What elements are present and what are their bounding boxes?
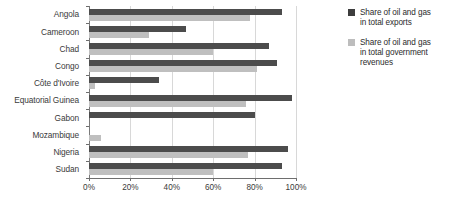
- bar-revenues: [89, 101, 246, 107]
- bar-group: [89, 144, 296, 161]
- category-label: Equatorial Guinea: [0, 92, 84, 109]
- bar-group: [89, 92, 296, 109]
- bar-revenues: [89, 15, 250, 21]
- bar-group: [89, 23, 296, 40]
- category-label: Gabon: [0, 109, 84, 126]
- bar-group: [89, 126, 296, 143]
- category-label: Congo: [0, 58, 84, 75]
- bar-group: [89, 109, 296, 126]
- bar-exports: [89, 77, 159, 83]
- legend-item[interactable]: Share of oil and gasin total exports: [348, 8, 452, 29]
- bar-group: [89, 75, 296, 92]
- bar-exports: [89, 112, 255, 118]
- x-axis-tick-label: 80%: [246, 184, 262, 192]
- legend-label-line: in total government: [360, 48, 431, 58]
- x-axis-tick-label: 100%: [286, 184, 307, 192]
- legend-swatch-revenues-icon: [348, 39, 355, 46]
- legend-label: Share of oil and gasin total governmentr…: [360, 38, 431, 69]
- category-label: Angola: [0, 6, 84, 23]
- x-axis-tick-label: 60%: [205, 184, 221, 192]
- legend-item[interactable]: Share of oil and gasin total governmentr…: [348, 38, 452, 69]
- chart-legend: Share of oil and gasin total exportsShar…: [348, 8, 452, 77]
- x-axis-tick: [89, 178, 90, 181]
- bar-revenues: [89, 83, 95, 89]
- x-axis-tick-label: 0%: [83, 184, 95, 192]
- gridline: [296, 6, 297, 178]
- category-label: Côte d'Ivoire: [0, 75, 84, 92]
- x-axis-tick: [172, 178, 173, 181]
- oil-gas-share-bar-chart: AngolaCameroonChadCongoCôte d'IvoireEqua…: [0, 0, 452, 207]
- bar-revenues: [89, 152, 248, 158]
- category-label: Mozambique: [0, 126, 84, 143]
- x-axis-tick: [213, 178, 214, 181]
- bar-revenues: [89, 66, 257, 72]
- bar-revenues: [89, 169, 213, 175]
- legend-label-line: Share of oil and gas: [360, 38, 431, 48]
- x-axis-tick-label: 20%: [122, 184, 138, 192]
- x-axis-tick: [296, 178, 297, 181]
- category-label: Chad: [0, 40, 84, 57]
- legend-label-line: Share of oil and gas: [360, 8, 431, 18]
- y-axis-category-labels: AngolaCameroonChadCongoCôte d'IvoireEqua…: [0, 6, 84, 178]
- x-axis-tick: [255, 178, 256, 181]
- category-label: Nigeria: [0, 144, 84, 161]
- bar-group: [89, 58, 296, 75]
- legend-swatch-exports-icon: [348, 9, 355, 16]
- bar-group: [89, 6, 296, 23]
- bar-group: [89, 161, 296, 178]
- category-label: Sudan: [0, 161, 84, 178]
- plot-area: [89, 6, 296, 178]
- bar-revenues: [89, 135, 101, 141]
- legend-label-line: revenues: [360, 58, 431, 68]
- bar-revenues: [89, 49, 213, 55]
- bar-revenues: [89, 32, 149, 38]
- category-label: Cameroon: [0, 23, 84, 40]
- legend-label: Share of oil and gasin total exports: [360, 8, 431, 29]
- x-axis-line: [89, 178, 297, 179]
- x-axis-tick: [130, 178, 131, 181]
- bar-group: [89, 40, 296, 57]
- x-axis-tick-label: 40%: [164, 184, 180, 192]
- legend-label-line: in total exports: [360, 18, 431, 28]
